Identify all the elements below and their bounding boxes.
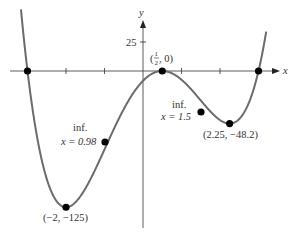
inflection-label-2-value: x = 1.5 (160, 111, 191, 122)
inflection-label-1-value: x = 0.98 (60, 136, 97, 147)
data-point (159, 67, 166, 74)
data-point (226, 120, 233, 127)
label-half-zero: ( 1 2 , 0) (150, 50, 174, 67)
data-point (101, 138, 108, 145)
inflection-label-2-title: inf. (172, 99, 186, 110)
function-plot: x y 25 ( 1 2 , 0) inf. x = 0.98 inf. x =… (0, 0, 290, 235)
global-min-label: (−2, −125) (43, 212, 89, 224)
svg-text:(: ( (150, 53, 154, 65)
local-min-label: (2.25, −48.2) (203, 129, 258, 141)
x-axis-arrow-icon (272, 68, 280, 74)
data-point (62, 204, 69, 211)
data-point (255, 67, 262, 74)
data-point (24, 67, 31, 74)
svg-text:, 0): , 0) (159, 53, 174, 65)
x-axis-label: x (282, 65, 288, 76)
y-axis-arrow-icon (140, 20, 146, 28)
svg-text:2: 2 (155, 59, 159, 67)
inflection-label-1-title: inf. (73, 122, 87, 133)
function-curve (21, 9, 266, 207)
svg-text:1: 1 (155, 50, 159, 58)
y-axis-label: y (138, 7, 144, 18)
data-point (197, 108, 204, 115)
y-tick-label-25: 25 (126, 37, 137, 48)
